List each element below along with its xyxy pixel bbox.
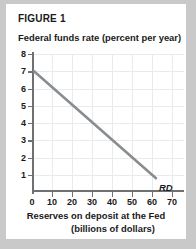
figure-number-label: FIGURE 1 [18, 13, 66, 24]
x-axis-title-line2: (billions of dollars) [6, 223, 186, 236]
x-tick-label: 60 [147, 198, 157, 207]
x-tick-label: 20 [67, 198, 77, 207]
x-tick-label: 30 [87, 198, 97, 207]
x-tick-label: 10 [47, 198, 57, 207]
y-tick-label: 6 [21, 84, 26, 93]
x-tick-label: 0 [29, 198, 34, 207]
reserve-demand-curve [32, 54, 184, 192]
figure-card: FIGURE 1 Federal funds rate (percent per… [6, 4, 186, 239]
y-axis-title: Federal funds rate (percent per year) [18, 32, 181, 43]
curve-label-rd: RD [159, 182, 173, 193]
y-tick-label: 5 [21, 101, 26, 110]
plot-area: 12345678 010203040506070 RD [32, 54, 184, 192]
y-tick-label: 4 [21, 119, 26, 128]
y-tick-label: 3 [21, 136, 26, 145]
x-tick-label: 40 [107, 198, 117, 207]
y-tick-label: 1 [21, 170, 26, 179]
x-axis-title: Reserves on deposit at the Fed (billions… [6, 210, 186, 235]
x-tick-label: 50 [127, 198, 137, 207]
y-tick-label: 2 [21, 153, 26, 162]
y-tick-label: 8 [21, 50, 26, 59]
x-tick-label: 70 [167, 198, 177, 207]
x-axis-title-line1: Reserves on deposit at the Fed [27, 210, 166, 221]
y-tick-label: 7 [21, 67, 26, 76]
